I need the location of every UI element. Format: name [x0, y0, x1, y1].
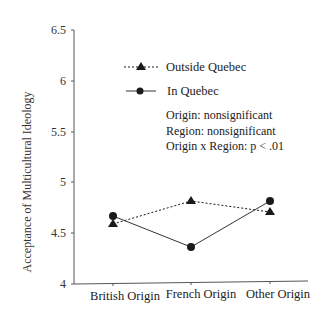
series-outside-quebec — [108, 196, 275, 227]
circle-marker — [266, 197, 274, 205]
category-label-french: French Origin — [166, 287, 237, 301]
triangle-marker — [186, 196, 196, 204]
y-tick-label: 6 — [60, 74, 66, 88]
y-tick-label: 5 — [60, 175, 66, 189]
circle-marker — [137, 88, 144, 95]
note-interaction: Origin x Region: p < .01 — [166, 139, 284, 153]
y-tick-label: 5.5 — [51, 125, 66, 139]
legend-label: Outside Quebec — [166, 60, 247, 74]
significance-notes: Origin: nonsignificant Region: nonsignif… — [166, 108, 284, 153]
note-origin: Origin: nonsignificant — [166, 108, 273, 122]
triangle-marker — [108, 219, 118, 227]
y-axis-label: Acceptance of Multicultural Ideology — [20, 92, 34, 273]
legend-label: In Quebec — [167, 84, 219, 98]
y-tick-label: 4.5 — [51, 226, 66, 240]
triangle-marker — [136, 62, 146, 70]
circle-marker — [187, 243, 195, 251]
y-tick-label: 4 — [60, 277, 66, 291]
circle-marker — [109, 212, 117, 220]
legend-item-outside-quebec: Outside Quebec — [124, 60, 247, 74]
note-region: Region: nonsignificant — [166, 124, 276, 138]
category-label-other: Other Origin — [246, 287, 311, 301]
chart: 6.5 6 5.5 5 4.5 4 British Origin French … — [0, 0, 327, 318]
series-in-quebec — [109, 197, 274, 251]
y-tick-labels: 6.5 6 5.5 5 4.5 4 — [51, 23, 66, 291]
x-tick-labels: British Origin French Origin Other Origi… — [90, 287, 311, 303]
category-label-british: British Origin — [90, 289, 161, 303]
triangle-marker — [265, 207, 275, 215]
legend: Outside Quebec In Quebec — [124, 60, 247, 98]
y-tick-label: 6.5 — [51, 23, 66, 37]
legend-item-in-quebec: In Quebec — [126, 84, 219, 98]
